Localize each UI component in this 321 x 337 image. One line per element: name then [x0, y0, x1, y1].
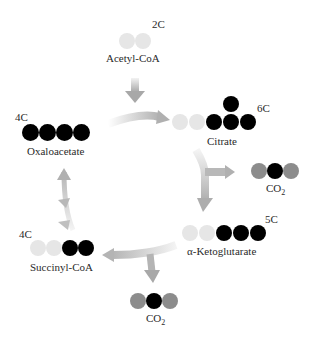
carbon-atom [78, 240, 94, 256]
carbon-atom [146, 293, 162, 309]
carbon-atom [39, 124, 56, 141]
citrate-label: Citrate [207, 135, 237, 147]
carbon-atom [172, 114, 188, 130]
carbon-atom [240, 114, 256, 130]
carbon-atom [46, 240, 62, 256]
acetyl-coa-carbon-count: 2C [152, 18, 165, 30]
acetyl-coa-label: Acetyl-CoA [106, 52, 160, 64]
oxygen-atom [251, 163, 267, 179]
succinyl-coa-label: Succinyl-CoA [30, 261, 93, 273]
co2-second-label: CO2 [146, 312, 165, 327]
oxaloacetate-carbon-count: 4C [15, 111, 28, 123]
acetyl-down-arrow [125, 78, 145, 103]
oxygen-atom [130, 293, 146, 309]
carbon-atom [182, 225, 198, 241]
oxaloacetate-label: Oxaloacetate [27, 145, 84, 157]
carbon-atom [73, 124, 90, 141]
succinyl-coa-carbon-count: 4C [19, 228, 32, 240]
carbon-atom [223, 96, 239, 112]
carbon-atom [216, 225, 232, 241]
ketoglutarate-to-succinyl-arrow [102, 245, 176, 283]
carbon-atom [119, 33, 135, 49]
carbon-atom [233, 225, 249, 241]
oxygen-atom [162, 293, 178, 309]
carbon-atom [189, 114, 205, 130]
carbon-atom [135, 33, 151, 49]
oxaloacetate-to-citrate-arrow [108, 110, 170, 124]
oxygen-atom [283, 163, 299, 179]
carbon-atom [22, 124, 39, 141]
carbon-atom [199, 225, 215, 241]
citrate-carbon-count: 6C [257, 102, 270, 114]
succinyl-to-oxaloacetate-arrow [57, 168, 73, 230]
ketoglutarate-carbon-count: 5C [265, 213, 278, 225]
carbon-atom [62, 240, 78, 256]
carbon-atom [30, 240, 46, 256]
carbon-atom [250, 225, 266, 241]
carbon-atom [56, 124, 73, 141]
carbon-atom [267, 163, 283, 179]
co2-first-label: CO2 [266, 182, 285, 197]
citrate-to-ketoglutarate-arrow [196, 150, 235, 212]
ketoglutarate-label: α-Ketoglutarate [187, 245, 256, 257]
carbon-atom [223, 114, 239, 130]
carbon-atom [206, 114, 222, 130]
